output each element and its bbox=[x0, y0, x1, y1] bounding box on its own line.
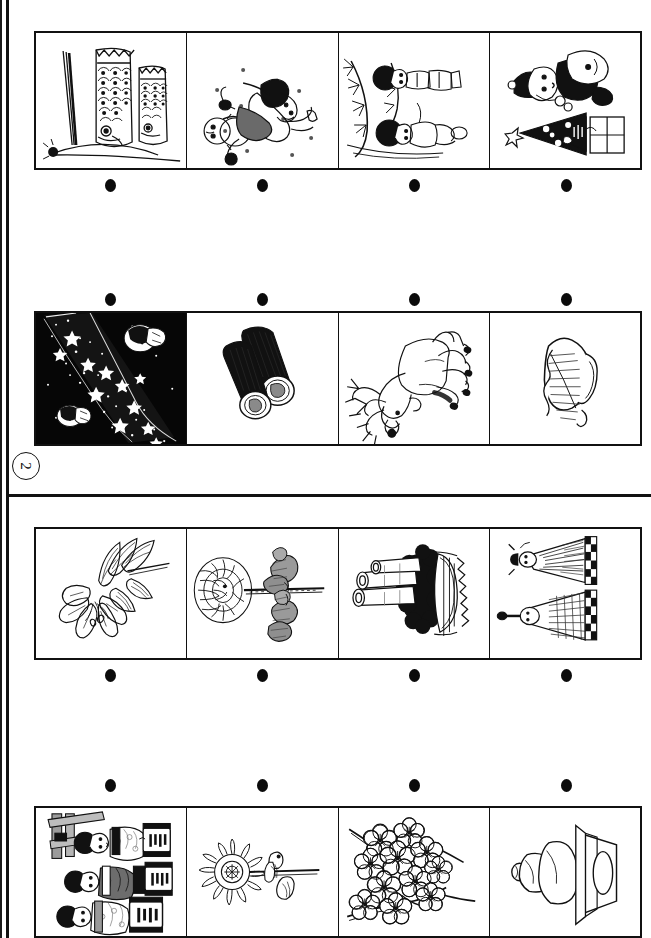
connect-dot[interactable] bbox=[561, 293, 572, 306]
milky-way-night-sky-icon bbox=[36, 313, 186, 444]
picture-panel-snow-play[interactable] bbox=[187, 33, 338, 168]
children-with-lanterns-icon bbox=[36, 808, 186, 936]
worksheet-page: 2 bbox=[0, 0, 651, 938]
picture-strip-row-2 bbox=[34, 311, 642, 446]
dot-cell[interactable] bbox=[490, 772, 642, 798]
picture-panel-ehomaki[interactable] bbox=[187, 313, 338, 444]
picture-panel-festival-children[interactable] bbox=[36, 808, 187, 936]
dot-cell[interactable] bbox=[338, 286, 490, 312]
dot-cell[interactable] bbox=[186, 662, 338, 688]
picture-panel-hina-dolls[interactable] bbox=[490, 529, 640, 658]
dot-cell[interactable] bbox=[338, 172, 490, 198]
picture-panel-reindeer[interactable] bbox=[339, 313, 490, 444]
page-edge-line bbox=[0, 0, 2, 938]
plum-blossom-branch-icon bbox=[339, 808, 489, 936]
dot-cell[interactable] bbox=[186, 772, 338, 798]
hina-dolls-icon bbox=[490, 529, 640, 658]
dot-row-2 bbox=[34, 286, 642, 312]
dot-cell[interactable] bbox=[490, 286, 642, 312]
picture-panel-kadomatsu[interactable] bbox=[339, 529, 490, 658]
picture-panel-kashiwa-mochi[interactable] bbox=[490, 313, 640, 444]
dot-cell[interactable] bbox=[34, 662, 186, 688]
children-with-bamboo-icon bbox=[339, 33, 489, 168]
picture-strip-row-1 bbox=[34, 31, 642, 170]
connect-dot[interactable] bbox=[561, 669, 572, 682]
dot-row-3 bbox=[34, 662, 642, 688]
connect-dot[interactable] bbox=[257, 179, 268, 192]
picture-strip-row-4 bbox=[34, 806, 642, 938]
dot-cell[interactable] bbox=[186, 286, 338, 312]
kashiwa-mochi-icon bbox=[490, 313, 640, 444]
dot-row-4 bbox=[34, 772, 642, 798]
picture-panel-kagami-mochi[interactable] bbox=[490, 808, 640, 936]
dot-cell[interactable] bbox=[338, 772, 490, 798]
connect-dot[interactable] bbox=[105, 779, 116, 792]
dot-cell[interactable] bbox=[34, 172, 186, 198]
picture-panel-tanabata-bamboo[interactable] bbox=[339, 33, 490, 168]
dot-row-1 bbox=[34, 172, 642, 198]
chrysanthemum-with-chestnuts-icon bbox=[187, 529, 337, 658]
section-divider bbox=[6, 494, 651, 497]
connect-dot[interactable] bbox=[561, 779, 572, 792]
connect-dot[interactable] bbox=[409, 179, 420, 192]
picture-panel-chrysanthemum[interactable] bbox=[187, 529, 338, 658]
picture-panel-koinobori[interactable] bbox=[36, 33, 187, 168]
connect-dot[interactable] bbox=[409, 779, 420, 792]
connect-dot[interactable] bbox=[257, 293, 268, 306]
child-in-snow-icon bbox=[187, 33, 337, 168]
picture-panel-plum-blossom[interactable] bbox=[339, 808, 490, 936]
dot-cell[interactable] bbox=[490, 172, 642, 198]
kadomatsu-icon bbox=[339, 529, 489, 658]
picture-strip-row-3 bbox=[34, 527, 642, 660]
picture-panel-sunflower[interactable] bbox=[187, 808, 338, 936]
connect-dot[interactable] bbox=[105, 179, 116, 192]
dot-cell[interactable] bbox=[186, 172, 338, 198]
connect-dot[interactable] bbox=[409, 669, 420, 682]
connect-dot[interactable] bbox=[257, 779, 268, 792]
picture-panel-milky-way[interactable] bbox=[36, 313, 187, 444]
connect-dot[interactable] bbox=[105, 293, 116, 306]
dot-cell[interactable] bbox=[34, 286, 186, 312]
santa-christmas-tree-icon bbox=[490, 33, 640, 168]
dot-cell[interactable] bbox=[338, 662, 490, 688]
picture-panel-lily[interactable] bbox=[36, 529, 187, 658]
picture-panel-santa-christmas[interactable] bbox=[490, 33, 640, 168]
sunflower-icon bbox=[187, 808, 337, 936]
connect-dot[interactable] bbox=[561, 179, 572, 192]
dot-cell[interactable] bbox=[34, 772, 186, 798]
ehomaki-sushi-roll-icon bbox=[187, 313, 337, 444]
connect-dot[interactable] bbox=[105, 669, 116, 682]
dot-cell[interactable] bbox=[490, 662, 642, 688]
page-frame-left bbox=[6, 0, 9, 938]
connect-dot[interactable] bbox=[409, 293, 420, 306]
question-number-badge: 2 bbox=[12, 452, 40, 480]
kagami-mochi-icon bbox=[490, 808, 640, 936]
reindeer-icon bbox=[339, 313, 489, 444]
lily-flower-icon bbox=[36, 529, 186, 658]
connect-dot[interactable] bbox=[257, 669, 268, 682]
koinobori-icon bbox=[36, 33, 186, 168]
